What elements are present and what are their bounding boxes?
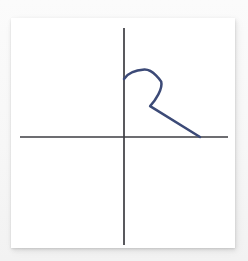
polar-loop-curve [124, 70, 200, 137]
plot-svg [0, 0, 248, 261]
figure-scene [0, 0, 248, 261]
